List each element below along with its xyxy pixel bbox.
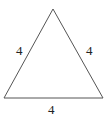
left-side-label: 4 — [16, 43, 23, 58]
bottom-side-label: 4 — [48, 102, 55, 117]
triangle-diagram: 4 4 4 — [0, 0, 107, 117]
right-side-label: 4 — [86, 43, 93, 58]
